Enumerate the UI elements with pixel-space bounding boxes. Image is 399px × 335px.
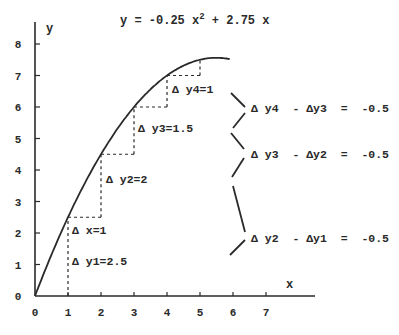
x-axis-label: x	[286, 278, 293, 292]
x-tick-labels: 01234567	[32, 307, 270, 319]
x-tick-label: 2	[98, 307, 105, 319]
bracket-y2-y1	[233, 186, 245, 232]
difference-brackets	[230, 93, 245, 255]
second-diff-21: Δ y2 - Δy1 = -0.5	[251, 232, 389, 245]
x-tick-label: 7	[263, 307, 270, 319]
y-tick-label: 8	[15, 39, 22, 51]
equation-title: y = -0.25 x2 + 2.75 x	[120, 12, 269, 28]
bracket-y4-y3	[231, 93, 245, 107]
delta-y4-label: Δ y4=1	[172, 83, 214, 96]
y-tick-label: 5	[15, 134, 22, 146]
y-tick-label: 1	[15, 260, 22, 272]
x-tick-label: 5	[197, 307, 204, 319]
x-tick-label: 4	[164, 307, 171, 319]
y-tick-label: 2	[15, 228, 22, 240]
equation-lhs: y = -0.25 x	[120, 14, 199, 28]
y-tick-label: 3	[15, 197, 22, 209]
x-tick-label: 6	[230, 307, 237, 319]
x-tick-label: 0	[32, 307, 39, 319]
bracket-y4-y3-lower	[233, 113, 245, 128]
y-tick-label: 7	[15, 71, 22, 83]
second-diff-32: Δ y3 - Δy2 = -0.5	[251, 148, 389, 161]
bracket-y2-y1-lower	[230, 240, 245, 255]
equation-rhs: + 2.75 x	[205, 14, 270, 28]
bracket-y3-y2	[231, 133, 244, 149]
y-tick-label: 0	[15, 291, 22, 303]
delta-y3-label: Δ y3=1.5	[138, 122, 193, 135]
delta-x-label: Δ x=1	[72, 224, 107, 237]
delta-y1-label: Δ y1=2.5	[72, 255, 127, 268]
delta-y2-label: Δ y2=2	[106, 173, 148, 186]
y-tick-label: 6	[15, 102, 22, 114]
x-tick-label: 1	[65, 307, 72, 319]
second-diff-43: Δ y4 - Δy3 = -0.5	[251, 102, 389, 115]
y-tick-labels: 012345678	[15, 39, 22, 303]
x-tick-label: 3	[131, 307, 138, 319]
y-axis-label: y	[46, 22, 53, 36]
y-tick-label: 4	[15, 165, 22, 177]
bracket-y3-y2-lower	[232, 158, 244, 177]
quadratic-differences-diagram: 01234567 012345678 y x y = -0.25 x2 + 2.…	[0, 0, 399, 335]
axis-ticks	[35, 44, 266, 296]
